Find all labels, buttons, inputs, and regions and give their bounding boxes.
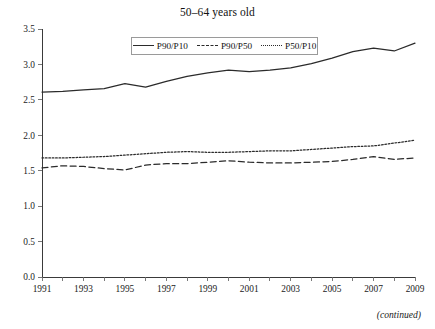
y-axis-tick-label: 1.0 — [23, 201, 35, 211]
x-axis-tick-label: 2007 — [364, 284, 383, 294]
y-axis-tick-label: 3.0 — [23, 60, 35, 70]
y-axis-tick-label: 2.5 — [23, 95, 35, 105]
legend-swatch-solid-icon — [133, 45, 154, 47]
series-line-p90-p50 — [42, 157, 415, 170]
x-axis-tick-label: 2009 — [406, 284, 425, 294]
y-axis-tick-label: 0.0 — [23, 272, 35, 282]
y-axis-tick-label: 1.5 — [23, 166, 35, 176]
legend-item-p50-p10: P50/P10 — [261, 41, 316, 51]
legend-swatch-dotted-icon — [261, 45, 282, 47]
legend-swatch-dashed-icon — [197, 45, 218, 47]
chart-figure: 50–64 years old 0.00.51.01.52.02.53.03.5… — [0, 0, 435, 329]
legend-item-p90-p50: P90/P50 — [197, 41, 252, 51]
y-axis-tick-label: 0.5 — [23, 237, 35, 247]
x-axis: 1991199319951997199920012003200520072009 — [33, 277, 425, 294]
x-axis-tick-label: 2001 — [240, 284, 259, 294]
x-axis-tick-label: 1993 — [74, 284, 93, 294]
x-axis-tick-label: 1991 — [33, 284, 52, 294]
x-axis-tick-label: 1995 — [116, 284, 135, 294]
y-axis-tick-label: 2.0 — [23, 131, 35, 141]
x-axis-tick-label: 1997 — [157, 284, 176, 294]
chart-legend: P90/P10 P90/P50 P50/P10 — [131, 37, 318, 55]
legend-label-p50-p10: P50/P10 — [285, 41, 316, 51]
legend-item-p90-p10: P90/P10 — [133, 41, 188, 51]
x-axis-tick-label: 2003 — [281, 284, 300, 294]
figure-continued-note: (continued) — [377, 309, 421, 320]
y-axis-tick-label: 3.5 — [23, 24, 35, 34]
x-axis-tick-label: 1999 — [198, 284, 217, 294]
y-axis: 0.00.51.01.52.02.53.03.5 — [23, 24, 42, 282]
x-axis-tick-label: 2005 — [323, 284, 342, 294]
legend-label-p90-p50: P90/P50 — [221, 41, 252, 51]
legend-label-p90-p10: P90/P10 — [157, 41, 188, 51]
data-series-group — [42, 43, 415, 170]
series-line-p50-p10 — [42, 140, 415, 158]
